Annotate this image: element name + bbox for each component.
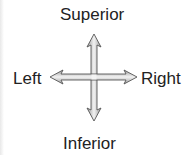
cross-arrows-icon — [0, 0, 185, 155]
